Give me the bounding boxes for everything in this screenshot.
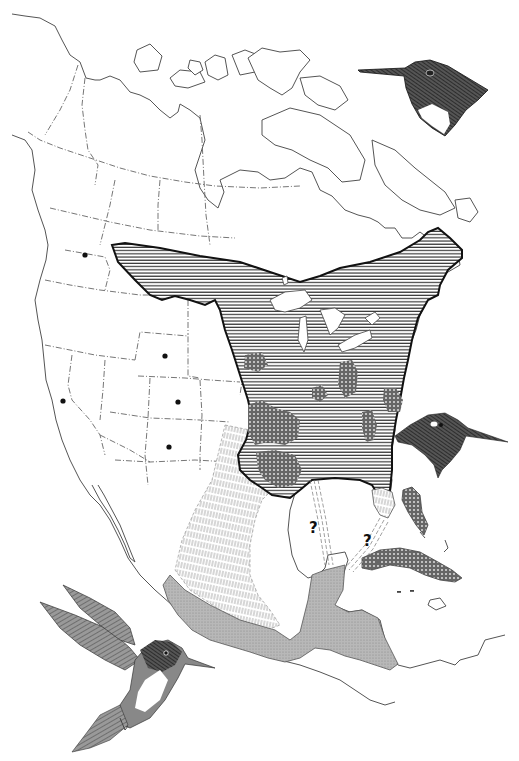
bird-head-right-illustration (395, 413, 508, 478)
bird-head-top-right-illustration (358, 60, 488, 136)
uncertain-route-label-1: ? (309, 519, 318, 537)
florida (372, 488, 395, 518)
uncertain-route-label-2: ? (363, 532, 372, 550)
range-map: ? ? (0, 0, 519, 761)
baja-california (92, 485, 135, 562)
